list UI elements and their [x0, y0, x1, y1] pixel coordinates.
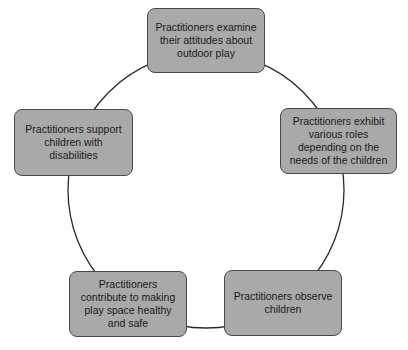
- node-healthy-safe-space: Practitioners contribute to making play …: [69, 271, 187, 337]
- node-label: Practitioners observe children: [231, 290, 335, 316]
- node-label: Practitioners support children with disa…: [21, 123, 126, 162]
- node-label: Practitioners examine their attitudes ab…: [154, 21, 258, 60]
- node-label: Practitioners exhibit various roles depe…: [287, 115, 390, 167]
- node-examine-attitudes: Practitioners examine their attitudes ab…: [147, 8, 265, 73]
- node-exhibit-roles: Practitioners exhibit various roles depe…: [280, 108, 397, 174]
- node-label: Practitioners contribute to making play …: [76, 278, 180, 330]
- node-observe-children: Practitioners observe children: [224, 270, 342, 336]
- node-support-disabilities: Practitioners support children with disa…: [14, 109, 133, 176]
